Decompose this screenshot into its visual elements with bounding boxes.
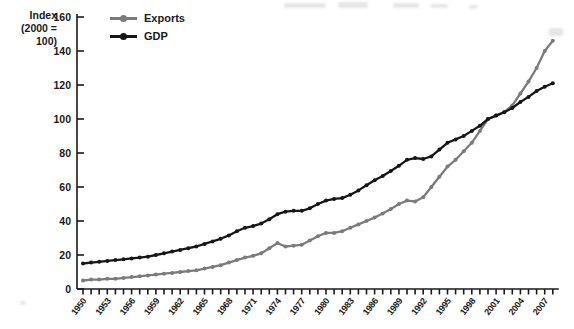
x-axis	[77, 289, 559, 295]
svg-text:1977: 1977	[288, 296, 308, 317]
svg-text:1962: 1962	[166, 296, 186, 317]
svg-text:0: 0	[65, 283, 71, 295]
svg-text:20: 20	[59, 249, 71, 261]
svg-text:1998: 1998	[458, 296, 478, 317]
svg-text:1950: 1950	[69, 296, 89, 317]
y-tick-labels: 020406080100120140160	[53, 11, 71, 295]
svg-text:1995: 1995	[434, 296, 454, 317]
figure: Index (2000 = 100) Exports GDP 020406080…	[0, 0, 574, 329]
svg-text:1956: 1956	[118, 296, 138, 317]
svg-text:1959: 1959	[142, 296, 162, 317]
chart-canvas: 0204060801001201401601950195319561959196…	[0, 0, 574, 329]
svg-text:1974: 1974	[264, 296, 284, 317]
svg-text:1953: 1953	[93, 296, 113, 317]
svg-text:140: 140	[53, 45, 71, 57]
svg-text:40: 40	[59, 215, 71, 227]
svg-text:2001: 2001	[482, 296, 502, 317]
svg-text:1980: 1980	[312, 296, 332, 317]
svg-text:60: 60	[59, 181, 71, 193]
svg-text:1986: 1986	[361, 296, 381, 317]
x-tick-labels: 1950195319561959196219651968197119741977…	[69, 296, 550, 317]
y-axis	[77, 14, 84, 289]
svg-text:1965: 1965	[191, 296, 211, 317]
svg-text:1971: 1971	[239, 296, 259, 317]
svg-text:1989: 1989	[385, 296, 405, 317]
svg-text:2004: 2004	[507, 296, 527, 317]
svg-text:100: 100	[53, 113, 71, 125]
series-exports	[81, 39, 555, 283]
svg-text:1992: 1992	[409, 296, 429, 317]
svg-text:160: 160	[53, 11, 71, 23]
svg-text:1983: 1983	[336, 296, 356, 317]
svg-text:80: 80	[59, 147, 71, 159]
svg-text:2007: 2007	[531, 296, 551, 317]
svg-text:1968: 1968	[215, 296, 235, 317]
svg-text:120: 120	[53, 79, 71, 91]
